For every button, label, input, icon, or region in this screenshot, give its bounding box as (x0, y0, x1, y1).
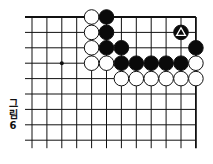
white-stone-icon (84, 10, 99, 25)
white-stone-icon (84, 56, 99, 71)
black-stone-icon (174, 56, 189, 71)
caption-char-2: 림 (5, 109, 21, 120)
white-stone-icon (114, 71, 129, 86)
white-stone-icon (174, 71, 189, 86)
black-stone-icon (114, 56, 129, 71)
white-stone-icon (129, 71, 144, 86)
white-stone-icon (84, 25, 99, 40)
white-stone-icon (144, 71, 159, 86)
black-stone-icon (114, 41, 129, 56)
figure-caption: 그 림 6 (5, 98, 21, 131)
go-board-diagram (0, 0, 213, 164)
white-stone-icon (84, 41, 99, 56)
white-stone-icon (159, 71, 174, 86)
black-stone-icon (99, 25, 114, 40)
black-stone-icon (99, 41, 114, 56)
white-stone-icon (189, 71, 204, 86)
caption-char-3: 6 (5, 120, 21, 131)
black-stone-icon (159, 56, 174, 71)
star-points (60, 61, 64, 65)
black-stone-icon (129, 56, 144, 71)
black-stone-icon (144, 56, 159, 71)
black-stone-icon (99, 10, 114, 25)
caption-char-1: 그 (5, 98, 21, 109)
black-stone-icon (189, 41, 204, 56)
white-stone-icon (99, 56, 114, 71)
white-stone-icon (189, 56, 204, 71)
star-point-icon (60, 61, 64, 65)
